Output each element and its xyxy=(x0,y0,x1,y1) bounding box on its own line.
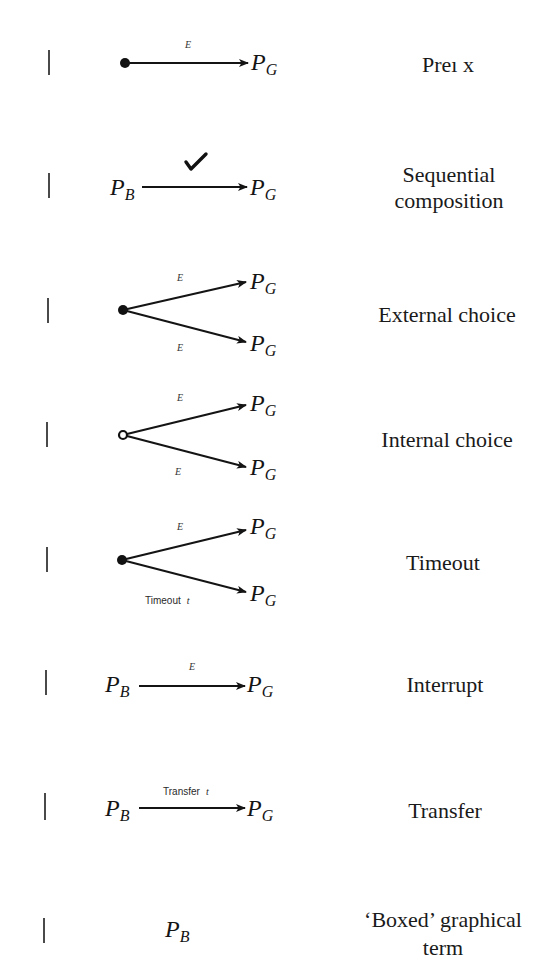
target-term-upper: PG xyxy=(249,390,277,419)
row-timeout: E Timeoutt PG PG Timeout xyxy=(47,513,480,609)
checkmark-icon xyxy=(186,154,206,169)
arrow-edge-upper xyxy=(123,282,246,310)
arrow-edge-upper xyxy=(127,405,246,434)
target-term: PG xyxy=(246,795,274,824)
target-term-upper: PG xyxy=(249,513,277,542)
event-label-lower: E xyxy=(176,342,183,353)
row-label: Preı x xyxy=(422,52,474,77)
transfer-event-label: Transfert xyxy=(163,786,209,797)
row-label-line-2: term xyxy=(423,935,463,960)
row-external-choice: E E PG PG External choice xyxy=(48,268,516,359)
open-circle-node xyxy=(119,431,127,439)
row-label: External choice xyxy=(378,302,515,327)
event-label-upper: E xyxy=(176,392,183,403)
target-term: PG xyxy=(246,671,274,700)
target-term: PG xyxy=(250,49,278,78)
row-label-line-1: ‘Boxed’ graphical xyxy=(364,907,522,932)
arrow-edge-lower xyxy=(122,560,246,592)
row-label: Timeout xyxy=(406,550,480,575)
row-sequential-composition: PB PG Sequential composition xyxy=(49,154,503,213)
target-term-lower: PG xyxy=(249,330,277,359)
source-term: PB xyxy=(104,671,130,700)
source-term: PB xyxy=(109,174,135,203)
event-label-lower: E xyxy=(174,466,181,477)
row-interrupt: PB E PG Interrupt xyxy=(46,661,483,700)
row-transfer: PB Transfert PG Transfer xyxy=(45,786,483,824)
target-term: PG xyxy=(249,174,277,203)
row-prefix: E PG Preı x xyxy=(49,39,474,78)
row-internal-choice: E E PG PG Internal choice xyxy=(47,390,513,483)
event-label: E xyxy=(188,661,195,672)
source-term: PB xyxy=(104,795,130,824)
row-label-line-1: Sequential xyxy=(403,162,496,187)
row-label: Transfer xyxy=(408,798,482,823)
arrow-edge-lower xyxy=(123,310,246,342)
target-term-upper: PG xyxy=(249,268,277,297)
event-label-upper: E xyxy=(176,272,183,283)
event-label: E xyxy=(184,39,191,50)
row-label-line-2: composition xyxy=(395,188,504,213)
target-term-lower: PG xyxy=(249,580,277,609)
source-term: PB xyxy=(164,916,190,945)
timeout-event-label: Timeoutt xyxy=(145,595,190,606)
target-term-lower: PG xyxy=(249,454,277,483)
arrow-edge-upper xyxy=(122,530,246,560)
notation-figure: E PG Preı x PB PG Sequential composition… xyxy=(0,0,552,974)
row-boxed-graphical-term: PB ‘Boxed’ graphical term xyxy=(44,907,522,960)
arrow-edge-lower xyxy=(127,436,246,467)
row-label: Internal choice xyxy=(381,427,512,452)
event-label-upper: E xyxy=(176,521,183,532)
row-label: Interrupt xyxy=(407,672,484,697)
